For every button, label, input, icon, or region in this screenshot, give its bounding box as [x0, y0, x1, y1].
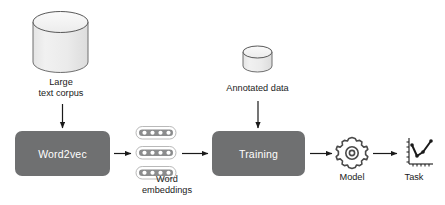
label-model: Model — [322, 172, 382, 183]
large-text-corpus-cylinder — [33, 12, 88, 73]
embedding-vector — [136, 147, 176, 160]
process-box-word2vec[interactable]: Word2vec — [15, 131, 110, 176]
process-box-word2vec-label: Word2vec — [38, 148, 87, 160]
line-chart-icon — [407, 138, 434, 167]
label-word-embeddings: Word embeddings — [122, 174, 212, 196]
annotated-data-cylinder — [243, 46, 272, 72]
embedding-vector — [136, 127, 176, 140]
label-task: Task — [388, 172, 440, 183]
process-box-training[interactable]: Training — [212, 131, 305, 176]
process-box-training-label: Training — [239, 148, 278, 160]
diagram-canvas: Word2vec Training Large text corpus Anno… — [0, 0, 445, 205]
gear-icon — [336, 138, 368, 169]
label-annotated-data: Annotated data — [205, 83, 310, 94]
word-embeddings-vectors — [136, 127, 176, 180]
label-large-text-corpus: Large text corpus — [20, 77, 102, 99]
